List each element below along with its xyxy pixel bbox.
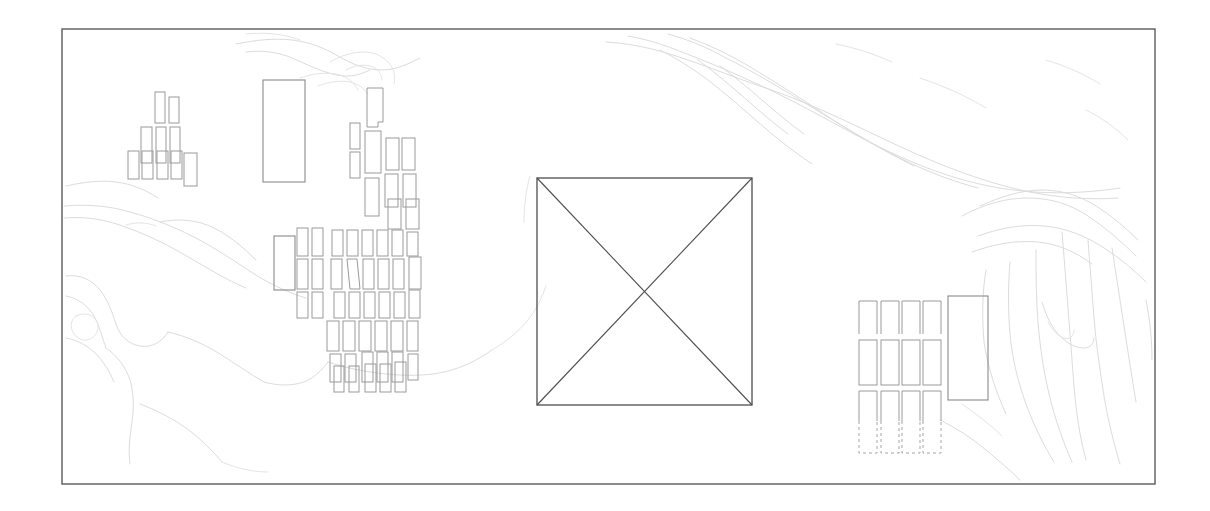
contour-lower-right-1 [940, 420, 1020, 480]
cluster-west-large-block [263, 80, 305, 182]
contour-east-slope-5 [1112, 248, 1136, 402]
building-footprint [128, 151, 139, 179]
contour-upper-center-6 [318, 81, 368, 94]
contour-right-4 [972, 241, 1092, 264]
contour-sw-basin-6 [264, 362, 328, 385]
building-footprint [388, 199, 401, 229]
building-footprint-dashed [902, 421, 920, 453]
contour-sw-basin-5 [168, 332, 264, 382]
building-footprint [365, 178, 379, 216]
cluster-east-large-block [948, 296, 988, 400]
building-footprint [380, 364, 391, 392]
contour-sw-basin-3 [71, 314, 98, 340]
building-footprint [141, 127, 152, 163]
building-footprint-open-bottom [902, 391, 920, 421]
building-footprint [363, 259, 374, 289]
building-footprint-dashed [859, 421, 877, 453]
contour-north-edge-2 [836, 44, 892, 62]
contour-west-4 [126, 223, 156, 226]
building-footprint [407, 321, 418, 351]
contour-ne-2 [628, 36, 1120, 193]
building-footprint [409, 257, 421, 289]
contour-east-slope-2 [1088, 240, 1120, 464]
contour-sw-basin-1 [66, 276, 168, 347]
building-footprint-open-bottom [923, 391, 941, 421]
building-footprint [385, 174, 398, 207]
building-footprint [395, 362, 406, 392]
contour-east-slope-4 [1009, 262, 1055, 462]
contour-right-1 [980, 190, 1138, 240]
building-footprint [391, 321, 403, 351]
building-footprint [379, 292, 390, 318]
contour-ne-1 [606, 42, 1118, 199]
building-footprint [331, 259, 342, 289]
building-footprint [142, 151, 153, 179]
building-footprint [327, 321, 339, 351]
contour-west-5 [160, 220, 256, 260]
building-footprint [406, 199, 419, 229]
building-footprint-open-bottom [902, 301, 920, 334]
building-footprint [386, 138, 399, 170]
building-footprint [332, 230, 343, 256]
building-footprint [343, 321, 355, 351]
building-footprint [881, 340, 899, 385]
contour-west-1 [64, 205, 306, 298]
contour-upper-center-1 [236, 39, 420, 70]
contour-east-slope-3 [1036, 250, 1072, 462]
contour-east-slope-6 [983, 270, 1006, 414]
building-footprint [184, 153, 197, 186]
contour-sw-basin-7 [66, 338, 114, 382]
building-footprint [407, 232, 418, 256]
building-footprint [349, 292, 360, 318]
building-footprint [350, 152, 360, 178]
contour-mid-right-2 [698, 60, 788, 134]
cluster-main-grid [297, 228, 421, 392]
building-footprint [923, 340, 941, 385]
building-footprint-dashed [881, 421, 899, 453]
building-footprint [169, 97, 179, 123]
building-footprint [330, 354, 341, 382]
building-footprint [408, 354, 418, 380]
building-footprint-medium [274, 236, 295, 290]
building-footprint-large [948, 296, 988, 400]
cluster-northwest-pyramid [128, 92, 197, 186]
building-footprint [392, 230, 403, 256]
building-footprint-dashed [923, 421, 941, 453]
building-footprint-open-bottom [859, 391, 877, 421]
building-footprint-notched [367, 88, 383, 127]
contour-north-edge-3 [1046, 60, 1100, 84]
contour-mid-right-1 [660, 50, 812, 164]
building-footprint-large [263, 80, 305, 182]
contour-plot-left [524, 176, 530, 222]
building-footprint-open-bottom [859, 301, 877, 334]
contour-layer [64, 33, 1152, 480]
building-footprint [392, 352, 403, 382]
cluster-north-central [350, 88, 419, 229]
building-footprint [359, 321, 371, 351]
building-footprint [347, 230, 358, 256]
contour-sw-basin-8 [140, 404, 222, 462]
building-footprint [312, 292, 323, 318]
building-footprint-open-bottom [881, 391, 899, 421]
building-footprint [350, 123, 360, 149]
building-footprint [312, 228, 323, 256]
building-footprint [334, 366, 344, 392]
building-footprint [334, 292, 345, 318]
building-footprint [365, 364, 376, 392]
building-footprint [375, 321, 387, 351]
contour-west-2 [64, 217, 246, 288]
cluster-east-grid [859, 301, 941, 453]
site-plan-svg [0, 0, 1210, 511]
contour-north-edge-4 [920, 78, 986, 108]
building-footprint [403, 174, 416, 207]
contour-mid-2 [492, 286, 546, 350]
building-footprint-open-bottom [881, 301, 899, 334]
building-footprint [377, 352, 388, 382]
contour-ne-pocket [1086, 110, 1128, 140]
building-footprint [902, 340, 920, 385]
building-footprint [155, 92, 165, 123]
building-footprint [378, 259, 389, 289]
contour-sw-basin-9 [222, 462, 268, 472]
central-square-plot [537, 178, 752, 405]
building-footprint [297, 228, 308, 256]
